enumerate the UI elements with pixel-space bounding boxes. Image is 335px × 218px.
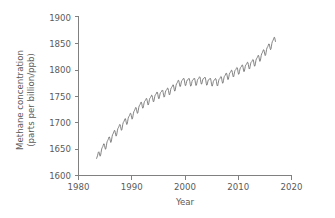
x-tick-label: 2010	[227, 182, 249, 192]
methane-series-line	[97, 37, 276, 158]
y-tick-label: 1700	[49, 118, 71, 128]
x-tick-label: 2020	[281, 182, 303, 192]
methane-concentration-chart: Methane concentration (parts per billion…	[0, 0, 335, 218]
y-tick-label: 1900	[49, 13, 71, 23]
y-tick-label: 1800	[49, 65, 71, 75]
chart-svg: Methane concentration (parts per billion…	[0, 0, 335, 218]
y-tick-label: 1600	[49, 171, 71, 181]
y-tick-label: 1750	[49, 92, 71, 102]
y-tick-label: 1650	[49, 144, 71, 154]
x-tick-label: 2000	[174, 182, 196, 192]
axis-lines	[79, 17, 292, 176]
y-axis-title-line2: (parts per billion/ppb)	[26, 53, 36, 147]
x-tick-label: 1980	[68, 182, 90, 192]
x-tick-label: 1990	[121, 182, 143, 192]
x-axis-title: Year	[175, 197, 195, 207]
y-axis-title-line1: Methane concentration	[15, 50, 25, 150]
y-tick-label: 1850	[49, 39, 71, 49]
y-axis-ticks: 1600 1650 1700 1750 1800 1850 1900	[49, 13, 78, 181]
x-axis-ticks: 1980 1990 2000 2010 2020	[68, 176, 303, 193]
y-axis-title: Methane concentration (parts per billion…	[15, 50, 36, 150]
